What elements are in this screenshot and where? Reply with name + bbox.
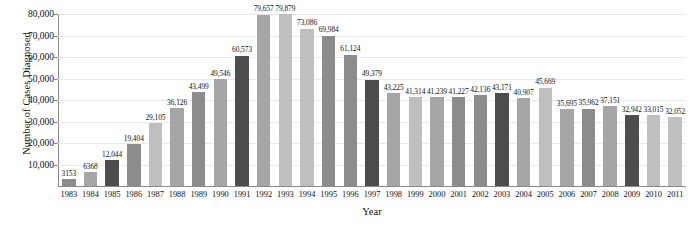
bar[interactable] bbox=[430, 97, 443, 186]
bar[interactable] bbox=[603, 106, 616, 186]
y-tick-label: 70,000 bbox=[28, 31, 54, 41]
bar[interactable] bbox=[387, 93, 400, 186]
bar-group[interactable]: 41,227 bbox=[452, 14, 465, 186]
bar-value-label: 69,984 bbox=[319, 25, 339, 34]
bar-group[interactable]: 49,546 bbox=[214, 14, 227, 186]
bar-group[interactable]: 73,086 bbox=[300, 14, 313, 186]
bar-value-label: 79,879 bbox=[275, 4, 295, 13]
bar-chart: Number of Cases Diagnosed 10,00020,00030… bbox=[0, 0, 691, 226]
x-tick-label: 2003 bbox=[494, 190, 511, 199]
x-tick-label: 1994 bbox=[299, 190, 316, 199]
bar-group[interactable]: 41,239 bbox=[430, 14, 443, 186]
bar-group[interactable]: 32,052 bbox=[668, 14, 681, 186]
bar-value-label: 49,546 bbox=[210, 69, 230, 78]
bar[interactable] bbox=[625, 115, 638, 186]
bar-group[interactable]: 6368 bbox=[84, 14, 97, 186]
bar[interactable] bbox=[322, 36, 335, 186]
bar-value-label: 43,171 bbox=[492, 83, 512, 92]
bar[interactable] bbox=[192, 92, 205, 186]
x-tick-label: 1985 bbox=[104, 190, 121, 199]
bar-group[interactable]: 41,314 bbox=[409, 14, 422, 186]
bar-group[interactable]: 19,404 bbox=[127, 14, 140, 186]
bars-layer: 3153636812,04419,40429,10536,12643,49949… bbox=[58, 14, 686, 186]
bar-group[interactable]: 79,879 bbox=[279, 14, 292, 186]
bar[interactable] bbox=[474, 95, 487, 186]
bar-value-label: 32,942 bbox=[622, 105, 642, 114]
x-tick-label: 1988 bbox=[169, 190, 186, 199]
bar[interactable] bbox=[409, 97, 422, 186]
x-tick-label: 1983 bbox=[60, 190, 77, 199]
x-tick-label: 2006 bbox=[559, 190, 576, 199]
bar[interactable] bbox=[214, 79, 227, 186]
y-tick-label: 30,000 bbox=[28, 117, 54, 127]
x-tick-label: 2005 bbox=[537, 190, 554, 199]
bar-group[interactable]: 49,379 bbox=[365, 14, 378, 186]
bar-value-label: 35,962 bbox=[579, 98, 599, 107]
y-tick-label: 20,000 bbox=[28, 138, 54, 148]
bar[interactable] bbox=[149, 123, 162, 186]
bar-group[interactable]: 79,657 bbox=[257, 14, 270, 186]
bar[interactable] bbox=[257, 15, 270, 186]
x-tick-label: 1986 bbox=[125, 190, 142, 199]
bar-group[interactable]: 43,225 bbox=[387, 14, 400, 186]
x-tick-label: 2007 bbox=[580, 190, 597, 199]
bar[interactable] bbox=[539, 88, 552, 186]
bar-value-label: 41,314 bbox=[405, 87, 425, 96]
bar-value-label: 45,669 bbox=[535, 77, 555, 86]
x-tick-label: 2001 bbox=[450, 190, 467, 199]
bar-group[interactable]: 40,907 bbox=[517, 14, 530, 186]
x-tick-label: 1989 bbox=[190, 190, 207, 199]
bar-value-label: 41,239 bbox=[427, 87, 447, 96]
bar-group[interactable]: 29,105 bbox=[149, 14, 162, 186]
bar[interactable] bbox=[84, 172, 97, 186]
x-tick-label: 1991 bbox=[234, 190, 251, 199]
bar-group[interactable]: 69,984 bbox=[322, 14, 335, 186]
bar-group[interactable]: 43,499 bbox=[192, 14, 205, 186]
bar[interactable] bbox=[647, 115, 660, 186]
bar-group[interactable]: 12,044 bbox=[105, 14, 118, 186]
bar[interactable] bbox=[560, 109, 573, 186]
bar[interactable] bbox=[127, 144, 140, 186]
bar[interactable] bbox=[62, 179, 75, 186]
bar[interactable] bbox=[170, 108, 183, 186]
bar-value-label: 36,126 bbox=[167, 98, 187, 107]
bar-group[interactable]: 45,669 bbox=[539, 14, 552, 186]
bar[interactable] bbox=[279, 14, 292, 186]
bar[interactable] bbox=[452, 97, 465, 186]
bar-group[interactable]: 35,695 bbox=[560, 14, 573, 186]
bar[interactable] bbox=[517, 98, 530, 186]
bar[interactable] bbox=[344, 55, 357, 186]
x-tick-label: 2004 bbox=[515, 190, 532, 199]
bar-value-label: 6368 bbox=[83, 162, 98, 171]
x-tick-label: 1993 bbox=[277, 190, 294, 199]
bar-group[interactable]: 42,136 bbox=[474, 14, 487, 186]
bar-group[interactable]: 61,124 bbox=[344, 14, 357, 186]
bar-value-label: 33,015 bbox=[643, 105, 663, 114]
bar[interactable] bbox=[300, 29, 313, 186]
x-axis-ticks: 1983198419851986198719881989199019911992… bbox=[58, 190, 686, 206]
bar-group[interactable]: 3153 bbox=[62, 14, 75, 186]
bar-group[interactable]: 35,962 bbox=[582, 14, 595, 186]
bar[interactable] bbox=[582, 109, 595, 186]
bar-value-label: 42,136 bbox=[470, 85, 490, 94]
y-tick-label: 10,000 bbox=[28, 160, 54, 170]
x-tick-label: 1998 bbox=[385, 190, 402, 199]
x-tick-label: 1996 bbox=[342, 190, 359, 199]
bar[interactable] bbox=[668, 117, 681, 186]
bar-group[interactable]: 43,171 bbox=[495, 14, 508, 186]
x-tick-label: 1992 bbox=[255, 190, 272, 199]
bar-value-label: 41,227 bbox=[449, 87, 469, 96]
bar-group[interactable]: 60,573 bbox=[235, 14, 248, 186]
bar[interactable] bbox=[365, 80, 378, 186]
bar[interactable] bbox=[235, 56, 248, 186]
bar-group[interactable]: 37,151 bbox=[603, 14, 616, 186]
bar[interactable] bbox=[495, 93, 508, 186]
bar-group[interactable]: 32,942 bbox=[625, 14, 638, 186]
bar-value-label: 19,404 bbox=[124, 134, 144, 143]
bar-group[interactable]: 36,126 bbox=[170, 14, 183, 186]
x-tick-label: 1990 bbox=[212, 190, 229, 199]
bar-value-label: 43,499 bbox=[189, 82, 209, 91]
x-tick-label: 1995 bbox=[320, 190, 337, 199]
bar-group[interactable]: 33,015 bbox=[647, 14, 660, 186]
bar[interactable] bbox=[105, 160, 118, 186]
